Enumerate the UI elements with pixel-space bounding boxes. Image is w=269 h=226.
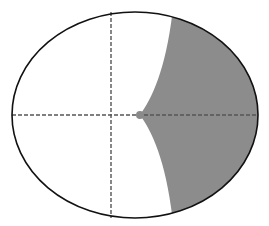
cusp-point: [136, 111, 144, 119]
ellipse-diagram: [0, 0, 269, 226]
